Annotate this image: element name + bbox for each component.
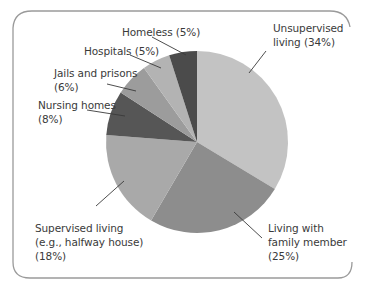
label-line: (25%) (268, 249, 347, 263)
label-line: Nursing homes (38, 98, 116, 112)
leader-line-supervised (96, 181, 124, 206)
label-nursing-homes: Nursing homes (8%) (38, 98, 116, 126)
label-line: family member (268, 235, 347, 249)
label-line: Unsupervised (273, 21, 343, 35)
label-living-with-family: Living with family member (25%) (268, 221, 347, 263)
label-line: living (34%) (273, 35, 343, 49)
leader-line-unsupervised (249, 51, 266, 73)
label-jails-and-prisons: Jails and prisons (6%) (54, 66, 138, 94)
label-homeless: Homeless (5%) (122, 25, 200, 39)
label-line: Supervised living (35, 221, 143, 235)
label-line: (8%) (38, 112, 116, 126)
chart-container: Unsupervised living (34%) Homeless (5%) … (0, 0, 369, 291)
label-hospitals: Hospitals (5%) (84, 44, 159, 58)
label-unsupervised-living: Unsupervised living (34%) (273, 21, 343, 49)
label-line: Living with (268, 221, 347, 235)
label-line: Hospitals (5%) (84, 44, 159, 58)
label-line: (18%) (35, 249, 143, 263)
label-line: Homeless (5%) (122, 25, 200, 39)
label-line: (e.g., halfway house) (35, 235, 143, 249)
label-line: (6%) (54, 80, 138, 94)
label-supervised-living: Supervised living (e.g., halfway house) … (35, 221, 143, 263)
label-line: Jails and prisons (54, 66, 138, 80)
